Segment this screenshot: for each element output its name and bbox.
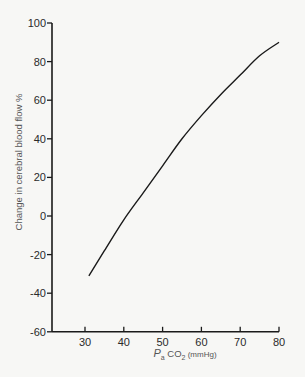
x-axis-title-co: CO	[165, 348, 182, 359]
x-tick-label: 30	[79, 336, 91, 348]
y-tick-label: 80	[34, 56, 46, 68]
y-tick-label: -40	[30, 287, 46, 299]
x-tick-label: 70	[234, 336, 246, 348]
chart: 100806040200-20-40-60 304050607080 Chang…	[0, 0, 305, 377]
y-tick-label: 0	[40, 210, 46, 222]
y-tick-label: -60	[30, 326, 46, 338]
y-axis: 100806040200-20-40-60	[28, 17, 52, 338]
x-tick-label: 40	[118, 336, 130, 348]
y-tick-label: 60	[34, 94, 46, 106]
x-tick-label: 50	[156, 336, 168, 348]
x-tick-label: 60	[195, 336, 207, 348]
y-tick-label: 20	[34, 171, 46, 183]
y-tick-label: -20	[30, 249, 46, 261]
x-axis-title-unit: (mmHg)	[185, 350, 216, 359]
x-axis-title: Pa CO2 (mmHg)	[153, 347, 216, 361]
y-tick-label: 100	[28, 17, 46, 29]
data-line	[89, 42, 279, 276]
y-tick-label: 40	[34, 133, 46, 145]
x-axis: 304050607080	[52, 327, 285, 348]
x-tick-label: 80	[273, 336, 285, 348]
y-axis-title: Change in cerebral blood flow %	[13, 93, 24, 230]
